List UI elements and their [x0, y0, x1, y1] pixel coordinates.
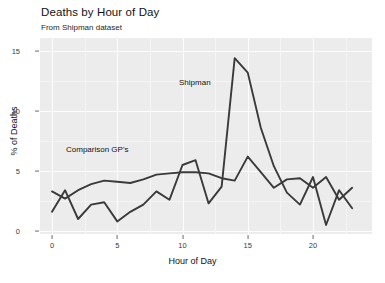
chart-container: Deaths by Hour of Day From Shipman datas…	[0, 0, 385, 283]
y-axis-tick-label: 10	[12, 107, 20, 116]
y-axis-tick-mark	[35, 111, 39, 112]
x-axis-tick-label: 20	[309, 241, 317, 250]
y-axis-tick-mark	[35, 231, 39, 232]
series-label-shipman: Shipman	[179, 78, 211, 87]
y-axis-title: % of Deaths	[9, 91, 19, 171]
series-lines-layer	[0, 0, 385, 283]
x-axis-tick-mark	[52, 235, 53, 239]
y-axis-tick-mark	[35, 171, 39, 172]
x-axis-tick-label: 0	[50, 241, 54, 250]
x-axis-tick-mark	[247, 235, 248, 239]
series-label-comparison-gps: Comparison GP's	[66, 145, 128, 154]
y-axis-tick-label: 0	[16, 227, 20, 236]
y-axis-tick-label: 15	[12, 47, 20, 56]
x-axis-title: Hour of Day	[0, 256, 385, 266]
x-axis-tick-mark	[313, 235, 314, 239]
y-axis-tick-mark	[35, 51, 39, 52]
y-axis-tick-label: 5	[16, 167, 20, 176]
x-axis-tick-label: 5	[115, 241, 119, 250]
x-axis-tick-mark	[182, 235, 183, 239]
x-axis-tick-label: 15	[244, 241, 252, 250]
x-axis-tick-mark	[117, 235, 118, 239]
series-line-comparison-gp-s	[52, 157, 352, 200]
x-axis-tick-label: 10	[178, 241, 186, 250]
